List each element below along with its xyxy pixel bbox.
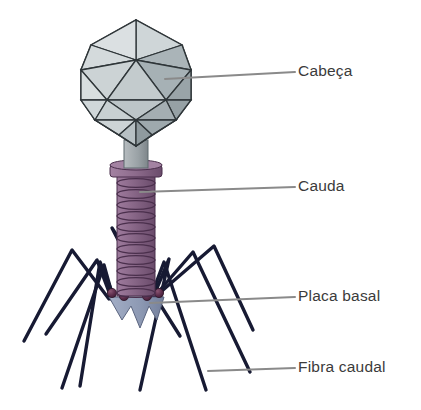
label-placa-basal: Placa basal	[298, 288, 380, 304]
leader-line-placa	[150, 297, 295, 303]
label-cauda: Cauda	[298, 178, 345, 194]
base-plate-sphere	[154, 288, 163, 297]
tail-fiber	[150, 262, 206, 390]
leader-line-cauda	[140, 187, 295, 192]
phage-diagram-figure: Cabeça Cauda Placa basal Fibra caudal	[0, 0, 421, 410]
phage-illustration	[0, 0, 421, 410]
leader-line-fibra	[208, 368, 295, 371]
label-fibra-caudal: Fibra caudal	[298, 359, 386, 375]
label-cabeca: Cabeça	[298, 63, 353, 79]
base-plate-sphere	[107, 288, 116, 297]
head-capsid-group	[81, 20, 191, 146]
